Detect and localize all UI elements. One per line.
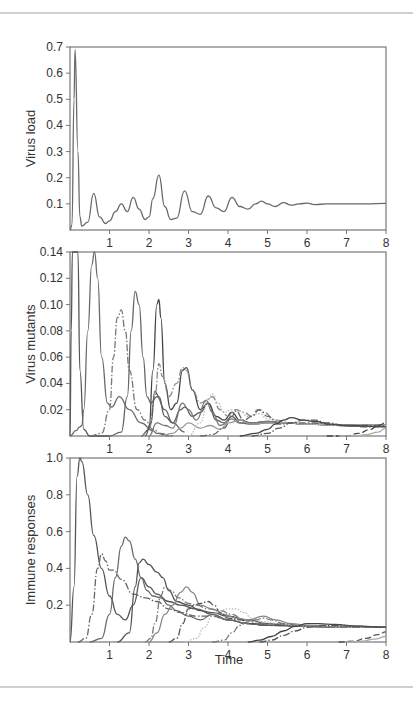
x-tick-label: 3 <box>185 648 192 662</box>
series-line <box>70 252 169 436</box>
x-tick-label: 6 <box>304 648 311 662</box>
x-tick-label: 5 <box>264 442 271 456</box>
y-axis-label: Virus load <box>23 110 38 168</box>
y-tick-label: 0.14 <box>40 245 64 259</box>
series-line <box>169 602 386 643</box>
x-tick-label: 4 <box>225 442 232 456</box>
y-tick-label: 1.0 <box>46 451 63 465</box>
y-tick-label: 0.4 <box>46 118 63 132</box>
y-tick-label: 0.2 <box>46 598 63 612</box>
series-line <box>90 310 173 436</box>
x-tick-label: 3 <box>185 236 192 250</box>
x-tick-label: 2 <box>146 648 153 662</box>
y-tick-label: 0.4 <box>46 561 63 575</box>
series-line <box>117 559 386 642</box>
series-line <box>161 420 386 436</box>
y-tick-label: 0.7 <box>46 40 63 54</box>
x-tick-label: 5 <box>264 648 271 662</box>
y-tick-label: 0.08 <box>40 324 64 338</box>
x-tick-label: 1 <box>106 442 113 456</box>
series-line <box>347 637 387 643</box>
x-tick-label: 8 <box>383 236 390 250</box>
x-tick-label: 2 <box>146 236 153 250</box>
x-tick-label: 8 <box>383 648 390 662</box>
virus-load-panel: 123456780.10.20.30.40.50.60.7Virus load <box>23 40 390 250</box>
x-tick-label: 7 <box>343 442 350 456</box>
y-tick-label: 0.8 <box>46 488 63 502</box>
y-tick-label: 0.06 <box>40 350 64 364</box>
x-tick-label: 7 <box>343 648 350 662</box>
x-tick-label: 6 <box>304 442 311 456</box>
x-tick-label: 3 <box>185 442 192 456</box>
y-axis-label: Virus mutants <box>23 304 38 384</box>
y-tick-label: 0.02 <box>40 403 64 417</box>
immune-responses-panel: 123456780.20.40.60.81.0Immune responses <box>23 451 390 662</box>
series-line <box>145 587 386 642</box>
y-tick-label: 0.6 <box>46 525 63 539</box>
x-tick-label: 8 <box>383 442 390 456</box>
x-tick-label: 4 <box>225 236 232 250</box>
plot-frame <box>70 252 386 436</box>
x-tick-label: 7 <box>343 236 350 250</box>
virus-mutants-panel: 123456780.020.040.060.080.100.120.14Viru… <box>23 245 390 456</box>
series-line <box>110 291 185 436</box>
series-line <box>78 554 386 642</box>
x-tick-label: 1 <box>106 236 113 250</box>
y-tick-label: 0.04 <box>40 376 64 390</box>
series-line <box>70 458 386 642</box>
y-tick-label: 0.3 <box>46 145 63 159</box>
figure: 123456780.10.20.30.40.50.60.7Virus load … <box>0 0 413 711</box>
x-tick-label: 1 <box>106 648 113 662</box>
series-line <box>70 252 110 436</box>
series-line <box>70 50 386 230</box>
y-tick-label: 0.2 <box>46 171 63 185</box>
x-axis-label: Time <box>215 652 243 667</box>
y-tick-label: 0.12 <box>40 271 64 285</box>
series-line <box>149 401 386 437</box>
x-tick-label: 5 <box>264 236 271 250</box>
y-tick-label: 0.1 <box>46 197 63 211</box>
y-axis-label: Immune responses <box>23 494 38 605</box>
x-tick-label: 6 <box>304 236 311 250</box>
y-tick-label: 0.10 <box>40 298 64 312</box>
y-tick-label: 0.6 <box>46 66 63 80</box>
x-tick-label: 2 <box>146 442 153 456</box>
y-tick-label: 0.5 <box>46 92 63 106</box>
